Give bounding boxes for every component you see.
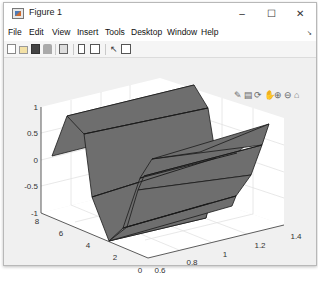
x-tick-label: 0.6 <box>154 266 166 275</box>
y-tick-label: 2 <box>113 253 118 262</box>
surface-plot-axes[interactable]: 1 0.5 0 -0.5 -1 8 6 4 2 0 0.6 0.8 1 1.2 … <box>0 0 318 295</box>
x-tick-label: 1.2 <box>254 241 266 250</box>
z-tick-label: 1 <box>34 103 39 112</box>
y-tick-label: 4 <box>86 241 91 250</box>
z-tick-label: -0.5 <box>24 182 38 191</box>
z-tick-label: 0 <box>34 156 39 165</box>
x-tick-label: 1 <box>223 250 228 259</box>
z-tick-label: 0.5 <box>27 129 39 138</box>
x-tick-label: 1.4 <box>290 232 302 241</box>
x-tick-label: 0.8 <box>186 258 198 267</box>
z-tick-labels: 1 0.5 0 -0.5 -1 <box>24 103 38 218</box>
y-tick-label: 8 <box>35 217 40 226</box>
y-tick-label: 0 <box>138 266 143 275</box>
y-tick-label: 6 <box>59 229 64 238</box>
